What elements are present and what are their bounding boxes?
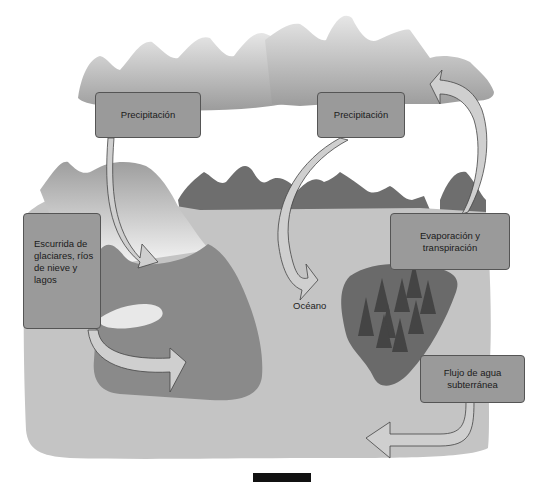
precipitation-label-left: Precipitación xyxy=(95,92,201,138)
groundwater-text: Flujo de agua subterránea xyxy=(433,367,513,391)
page-number-box xyxy=(253,473,311,482)
ocean-label: Océano xyxy=(293,300,326,311)
precipitation-label-right: Precipitación xyxy=(317,92,405,138)
evaporation-label: Evaporación y transpiración xyxy=(390,213,510,270)
runoff-text: Escurrida de glaciares, ríos de nieve y … xyxy=(34,238,94,286)
runoff-label: Escurrida de glaciares, ríos de nieve y … xyxy=(23,213,101,329)
groundwater-label: Flujo de agua subterránea xyxy=(420,355,525,403)
evaporation-text: Evaporación y transpiración xyxy=(405,230,495,254)
precipitation-right-text: Precipitación xyxy=(334,109,388,121)
precipitation-left-text: Precipitación xyxy=(121,109,175,121)
